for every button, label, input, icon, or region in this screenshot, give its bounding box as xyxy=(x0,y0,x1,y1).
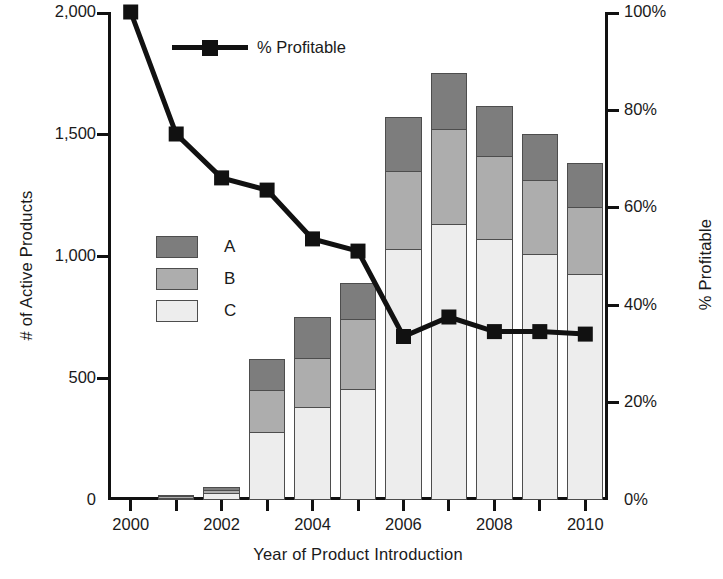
legend-swatch-a xyxy=(156,236,198,258)
y-axis-left-top-cap xyxy=(97,12,108,15)
x-axis-tick-label: 2002 xyxy=(182,515,262,534)
legend-label-b: B xyxy=(224,269,235,289)
y-axis-left-tick-label: 0 xyxy=(24,490,96,509)
x-axis-tick xyxy=(266,500,269,511)
legend-item-a: A xyxy=(156,236,236,258)
line-marker-square-icon xyxy=(305,231,320,246)
x-axis-tick-label: 2004 xyxy=(273,515,353,534)
x-axis-tick xyxy=(311,500,314,511)
line-marker-square-icon xyxy=(532,324,547,339)
x-axis-tick xyxy=(584,500,587,511)
legend-swatch-c xyxy=(156,300,198,322)
line-marker-square-icon xyxy=(260,183,275,198)
line-marker-square-icon xyxy=(169,127,184,142)
line-marker-square-icon xyxy=(351,244,366,259)
legend-profitable-label: % Profitable xyxy=(257,38,346,57)
x-axis-tick xyxy=(447,500,450,511)
y-axis-right-tick-label: 60% xyxy=(624,197,696,216)
legend-profitable: % Profitable xyxy=(172,38,346,57)
y-axis-right-tick xyxy=(608,401,619,404)
y-axis-right-tick xyxy=(608,304,619,307)
legend-label-a: A xyxy=(224,237,235,257)
y-axis-right-title: % Profitable xyxy=(696,165,715,365)
legend-item-c: C xyxy=(156,300,236,322)
x-axis-tick xyxy=(175,500,178,511)
y-axis-left-tick-label: 500 xyxy=(24,368,96,387)
x-axis-tick xyxy=(538,500,541,511)
line-marker-square-icon xyxy=(578,327,593,342)
x-axis-tick-label: 2008 xyxy=(454,515,534,534)
legend-square-marker-icon xyxy=(202,40,218,56)
y-axis-right-tick-label: 80% xyxy=(624,100,696,119)
line-marker-square-icon xyxy=(441,310,456,325)
y-axis-left-tick-label: 1,500 xyxy=(24,124,96,143)
x-axis-title: Year of Product Introduction xyxy=(108,545,608,564)
y-axis-right-top-cap xyxy=(608,12,619,15)
chart-canvas: # of Active Products % Profitable Year o… xyxy=(0,0,723,579)
x-axis-tick xyxy=(493,500,496,511)
x-axis-tick-label: 2000 xyxy=(91,515,171,534)
legend-label-c: C xyxy=(224,301,236,321)
y-axis-left-tick xyxy=(97,133,108,136)
y-axis-right-tick xyxy=(608,206,619,209)
line-marker-square-icon xyxy=(214,170,229,185)
y-axis-right-tick-label: 0% xyxy=(624,490,696,509)
y-axis-left-title: # of Active Products xyxy=(17,156,36,376)
y-axis-right-tick-label: 100% xyxy=(624,2,696,21)
y-axis-left-tick-label: 1,000 xyxy=(24,246,96,265)
x-axis-tick-label: 2006 xyxy=(363,515,443,534)
y-axis-right-tick-label: 20% xyxy=(624,392,696,411)
x-axis-tick xyxy=(220,500,223,511)
x-axis-tick xyxy=(402,500,405,511)
y-axis-left-tick xyxy=(97,377,108,380)
legend-swatch-b xyxy=(156,268,198,290)
y-axis-right-tick-label: 40% xyxy=(624,295,696,314)
line-marker-square-icon xyxy=(123,5,138,20)
x-axis-tick-label: 2010 xyxy=(545,515,625,534)
y-axis-left-tick-label: 2,000 xyxy=(24,2,96,21)
line-marker-square-icon xyxy=(396,329,411,344)
y-axis-left-tick xyxy=(97,255,108,258)
legend-categories: ABC xyxy=(156,236,236,322)
legend-item-b: B xyxy=(156,268,236,290)
x-axis-tick xyxy=(129,500,132,511)
line-marker-square-icon xyxy=(487,324,502,339)
legend-line-swatch xyxy=(172,45,248,50)
y-axis-right-tick xyxy=(608,109,619,112)
x-axis-tick xyxy=(357,500,360,511)
